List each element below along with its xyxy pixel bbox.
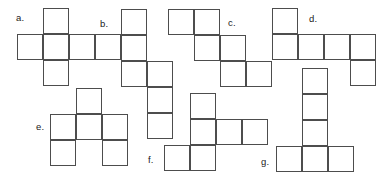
net-g-cell (302, 68, 328, 94)
net-label-e: e. (36, 122, 44, 132)
net-d-cell (350, 34, 376, 60)
net-c (168, 9, 272, 87)
net-label-f: f. (148, 155, 154, 165)
net-label-b: b. (100, 19, 108, 29)
net-a-cell (43, 34, 69, 60)
net-label-g: g. (261, 157, 269, 167)
net-b-cell (121, 35, 147, 61)
net-a-cell (69, 34, 95, 60)
net-g-grid (276, 68, 354, 172)
net-c-cell (220, 35, 246, 61)
net-f-cell (190, 145, 216, 171)
net-d-cell (272, 8, 298, 34)
net-f-cell (190, 93, 216, 119)
net-c-cell (168, 9, 194, 35)
net-c-grid (168, 9, 272, 87)
net-b-cell (121, 61, 147, 87)
net-g-cell (302, 94, 328, 120)
net-c-cell (220, 61, 246, 87)
net-e-cell (102, 114, 128, 140)
net-b-cell (121, 9, 147, 35)
net-f-grid (164, 93, 268, 171)
net-g-cell (302, 146, 328, 172)
net-e-grid (50, 88, 128, 166)
net-g (276, 68, 354, 172)
net-e-cell (76, 88, 102, 114)
net-c-cell (194, 35, 220, 61)
net-d-cell (272, 34, 298, 60)
net-d-cell (298, 34, 324, 60)
net-a-cell (43, 60, 69, 86)
net-e (50, 88, 128, 166)
net-d-cell (324, 34, 350, 60)
net-g-cell (328, 146, 354, 172)
net-f-cell (216, 119, 242, 145)
net-g-cell (302, 120, 328, 146)
net-a-cell (17, 34, 43, 60)
net-f-cell (164, 145, 190, 171)
net-g-cell (276, 146, 302, 172)
net-a-cell (95, 34, 121, 60)
net-c-cell (194, 9, 220, 35)
net-c-cell (246, 61, 272, 87)
net-e-cell (50, 114, 76, 140)
net-f-cell (242, 119, 268, 145)
net-f (164, 93, 268, 171)
net-f-cell (190, 119, 216, 145)
cube-nets-figure: a.b.c.d.e.f.g. (0, 0, 385, 178)
net-e-cell (76, 114, 102, 140)
net-e-cell (102, 140, 128, 166)
net-e-cell (50, 140, 76, 166)
net-a-cell (43, 8, 69, 34)
